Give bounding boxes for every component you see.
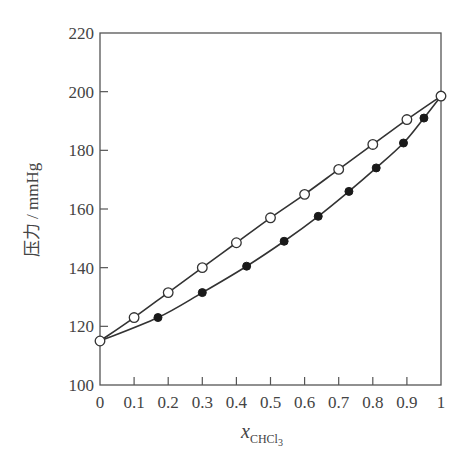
x-tick-label: 0.6 [294,393,315,412]
filled-circle-marker [420,114,428,122]
x-tick-label: 0.4 [226,393,248,412]
y-axis-title: 压力 / mmHg [23,162,42,257]
x-tick-label: 0.9 [396,393,417,412]
plot-border [100,33,441,385]
x-axis-title-main: x [240,420,250,442]
x-axis-title: xCHCl3 [240,420,283,448]
filled-circle-marker [345,187,353,195]
filled-circle-marker [154,314,162,322]
filled-circle-marker [372,164,380,172]
filled-circle-marker [243,262,251,270]
plot-frame [100,33,441,385]
x-axis-title-sub: CHCl [250,432,279,446]
filled-circle-marker [198,289,206,297]
x-tick-label: 0.1 [123,393,144,412]
y-tick-label: 140 [69,259,95,278]
open-circle-marker [232,238,242,248]
y-tick-label: 200 [69,83,95,102]
open-circle-marker [129,313,139,323]
open-circle-marker [368,140,378,150]
x-tick-label: 0 [96,393,105,412]
open-circle-marker [198,263,208,273]
filled-circle-marker [399,139,407,147]
open-circle-marker [95,336,105,346]
x-tick-label: 0.7 [328,393,350,412]
x-tick-label: 0.8 [362,393,383,412]
y-tick-label: 100 [69,376,95,395]
x-tick-label: 0.3 [192,393,213,412]
y-tick-label: 160 [69,200,95,219]
x-tick-label: 0.5 [260,393,281,412]
x-tick-label: 0.2 [158,393,179,412]
open-circle-marker [266,213,276,223]
x-tick-label: 1 [437,393,446,412]
filled-circle-marker [280,237,288,245]
open-circle-marker [300,190,310,200]
data-series [95,91,446,346]
open-circle-marker [402,115,412,125]
x-axis-title-subsub: 3 [278,437,283,448]
y-tick-label: 180 [69,141,95,160]
open-circle-marker [436,91,446,101]
open-circle-marker [163,288,173,298]
y-tick-label: 220 [69,24,95,43]
y-tick-label: 120 [69,317,95,336]
vapor-pressure-chart: 100120140160180200220 00.10.20.30.40.50.… [0,0,463,469]
x-axis-ticks: 00.10.20.30.40.50.60.70.80.91 [96,377,446,412]
filled-circle-marker [314,212,322,220]
open-circle-marker [334,165,344,175]
